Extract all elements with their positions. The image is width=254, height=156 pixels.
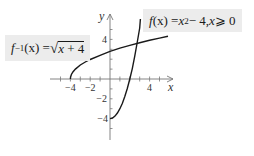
y-tick-label: −2 bbox=[96, 93, 107, 104]
inverse-function-label: f−1(x) = √x + 4 bbox=[5, 35, 90, 61]
function-arg: (x) = bbox=[153, 13, 179, 29]
function-curve bbox=[110, 19, 140, 119]
x-tick-label: −4 bbox=[65, 82, 76, 93]
function-label: f(x) = x2 − 4, x ⩾ 0 bbox=[143, 9, 242, 32]
y-axis-label: y bbox=[98, 9, 105, 23]
x-axis-label: x bbox=[167, 80, 174, 94]
radicand-rest: + 4 bbox=[64, 41, 84, 56]
function-rest: − 4, bbox=[189, 13, 209, 29]
x-tick-label: 4 bbox=[147, 82, 152, 93]
radicand: x + 4 bbox=[58, 41, 84, 56]
square-root: √x + 4 bbox=[50, 41, 84, 56]
y-tick-label: 4 bbox=[102, 34, 107, 45]
inverse-exponent: −1 bbox=[15, 43, 25, 53]
x-tick-label: −2 bbox=[85, 82, 96, 93]
y-tick-label: −4 bbox=[97, 113, 108, 124]
inverse-arg: (x) = bbox=[24, 40, 50, 56]
domain-condition: ⩾ 0 bbox=[215, 13, 236, 29]
radical-icon: √ bbox=[50, 41, 58, 56]
